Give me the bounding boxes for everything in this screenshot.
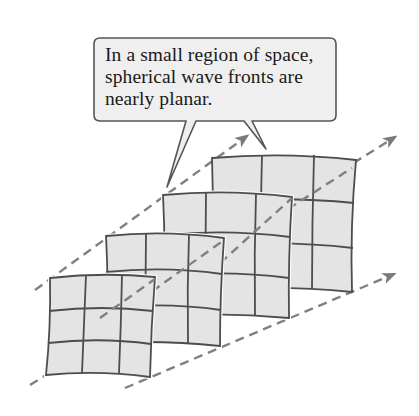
callout-line-1: In a small region of space, — [105, 44, 337, 66]
callout-text: In a small region of space, spherical wa… — [105, 44, 337, 110]
callout-line-2: spherical wave fronts are — [105, 66, 337, 88]
wavefront-1 — [46, 275, 155, 377]
diagram-canvas: In a small region of space, spherical wa… — [0, 0, 419, 416]
callout-line-3: nearly planar. — [105, 88, 337, 110]
ray-lower-left — [30, 375, 46, 385]
